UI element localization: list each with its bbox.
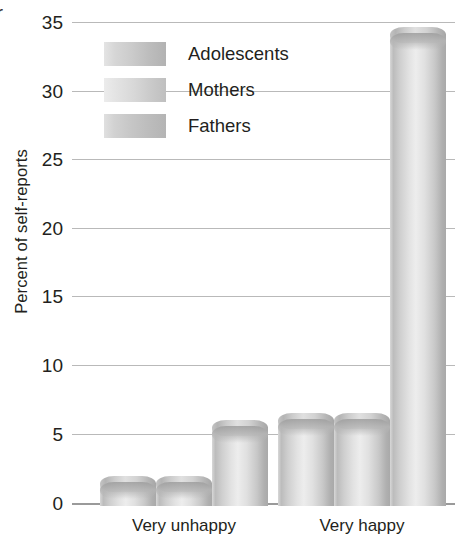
y-tick-label-20: 20 (42, 219, 63, 238)
legend-label-adolescents: Adolescents (188, 44, 289, 64)
bar-cap-shadow (390, 33, 446, 50)
bar-cap-shadow (334, 419, 390, 436)
gridline-35: 35 (72, 22, 455, 23)
bar-cap-shadow (278, 419, 334, 436)
x-axis-label-very-unhappy: Very unhappy (132, 516, 236, 535)
y-tick-label-10: 10 (42, 356, 63, 375)
legend-swatch-icon-mothers (104, 78, 166, 102)
chart-legend: Adolescents Mothers Fathers (104, 36, 334, 144)
bar-very-unhappy-adolescents (100, 483, 156, 506)
bar-cap-shadow (212, 426, 268, 443)
legend-swatch-icon-fathers (104, 114, 166, 138)
bar-very-happy-adolescents (278, 420, 334, 506)
bar-very-happy-fathers (390, 34, 446, 506)
cropped-edge-glyph: r (0, 2, 3, 23)
y-tick-label-30: 30 (42, 82, 63, 101)
legend-swatch-icon-adolescents (104, 42, 166, 66)
y-tick-label-5: 5 (52, 425, 63, 444)
x-axis-label-very-happy: Very happy (319, 516, 404, 535)
legend-label-fathers: Fathers (188, 116, 251, 136)
y-tick-label-15: 15 (42, 287, 63, 306)
legend-item-mothers: Mothers (104, 72, 334, 108)
bar-very-unhappy-mothers (156, 483, 212, 506)
y-tick-label-35: 35 (42, 13, 63, 32)
bar-very-happy-mothers (334, 420, 390, 506)
bar-very-unhappy-fathers (212, 427, 268, 506)
bar-cap-shadow (156, 482, 212, 499)
y-tick-label-0: 0 (52, 494, 63, 513)
bar-cap-shadow (100, 482, 156, 499)
y-axis-title: Percent of self-reports (12, 107, 31, 357)
legend-item-fathers: Fathers (104, 108, 334, 144)
legend-label-mothers: Mothers (188, 80, 255, 100)
y-tick-label-25: 25 (42, 150, 63, 169)
legend-item-adolescents: Adolescents (104, 36, 334, 72)
